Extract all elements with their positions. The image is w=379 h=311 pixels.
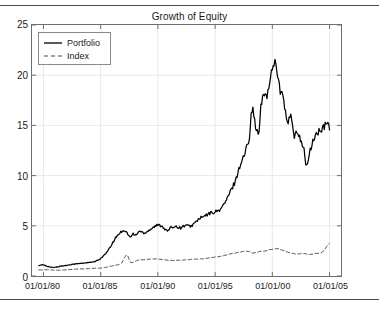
legend-label-index: Index (67, 51, 89, 61)
plot-wrapper: Growth of Equity 2520151050 01/01/8001/0… (0, 7, 379, 299)
x-axis-tick-label: 01/01/00 (255, 281, 290, 291)
y-axis-tick-label: 10 (2, 170, 28, 181)
legend-label-portfolio: Portfolio (67, 38, 100, 48)
chart-legend: Portfolio Index (38, 32, 111, 65)
y-axis-tick-labels: 2520151050 (0, 24, 28, 277)
y-axis-tick-label: 20 (2, 69, 28, 80)
y-axis-tick-label: 15 (2, 120, 28, 131)
legend-item-portfolio: Portfolio (43, 36, 110, 49)
y-axis-tick-label: 5 (2, 221, 28, 232)
legend-key-solid-line (43, 38, 63, 48)
y-axis-tick-label: 25 (2, 19, 28, 30)
legend-item-index: Index (43, 49, 110, 62)
figure-container: Growth of Equity 2520151050 01/01/8001/0… (0, 0, 379, 311)
x-axis-tick-label: 01/01/85 (83, 281, 118, 291)
x-axis-tick-label: 01/01/95 (198, 281, 233, 291)
x-axis-tick-label: 01/01/05 (313, 281, 348, 291)
bottom-divider-rule (0, 299, 379, 300)
top-divider-rule (0, 5, 379, 6)
x-axis-tick-label: 01/01/80 (25, 281, 60, 291)
page-title: Growth of Equity (0, 11, 379, 22)
x-axis-tick-labels: 01/01/8001/01/8501/01/9001/01/9501/01/00… (0, 281, 379, 295)
x-axis-tick-label: 01/01/90 (140, 281, 175, 291)
legend-key-dashed-line (43, 51, 63, 61)
